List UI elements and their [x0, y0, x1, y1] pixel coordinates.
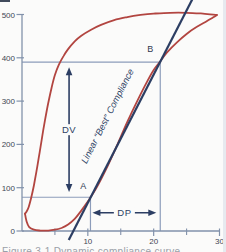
inspiration-limb	[25, 15, 217, 231]
dp-arrow-right-head	[148, 210, 156, 217]
dv-arrow-label: DV	[62, 124, 76, 135]
x-tick-label-10: 10	[83, 237, 92, 246]
y-tick-label-300: 300	[2, 97, 16, 106]
pv-compliance-chart: 0100200300400500102030DVDPABLinear “Best…	[0, 0, 226, 252]
dv-arrow-down-head	[66, 184, 73, 192]
dp-arrow-left-head	[92, 210, 100, 217]
caption-clipped: Figure 3-1 Dynamic compliance curve	[2, 246, 224, 252]
best-compliance-line	[69, 0, 193, 240]
dp-arrow-label: DP	[117, 207, 131, 218]
page-edge-artifact	[0, 0, 10, 2]
y-tick-label-0: 0	[11, 227, 16, 236]
x-tick-label-20: 20	[149, 237, 158, 246]
point-a-label: A	[80, 181, 86, 191]
pv-compliance-chart-svg: 0100200300400500102030DVDPABLinear “Best…	[0, 0, 226, 252]
dv-arrow-up-head	[66, 67, 73, 75]
y-tick-label-400: 400	[2, 54, 16, 63]
y-tick-label-200: 200	[2, 140, 16, 149]
line-label: Linear “Best” Compliance	[79, 67, 136, 165]
y-tick-label-500: 500	[2, 11, 16, 20]
point-b-label: B	[147, 44, 153, 54]
page-edge-strip	[223, 0, 226, 252]
expiration-limb	[25, 13, 217, 214]
y-tick-label-100: 100	[2, 184, 16, 193]
